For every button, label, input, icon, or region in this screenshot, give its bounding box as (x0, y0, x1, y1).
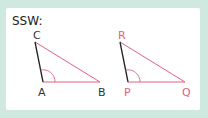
label-p: P (124, 86, 131, 99)
label-b: B (98, 86, 106, 99)
label-a: A (38, 86, 46, 99)
triangle-pqr: R P Q (118, 29, 191, 99)
label-c: C (33, 29, 41, 42)
triangles-diagram: C A B R P Q (0, 0, 208, 118)
label-q: Q (182, 86, 191, 99)
label-r: R (118, 29, 126, 42)
triangle-abc: C A B (33, 29, 106, 99)
